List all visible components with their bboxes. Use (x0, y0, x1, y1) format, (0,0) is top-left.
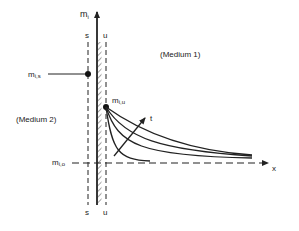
profile-curve-3 (106, 107, 252, 156)
profile-curve-2 (106, 107, 252, 158)
x-axis-label: x (272, 164, 276, 173)
plane-s-label-top: s (85, 31, 89, 40)
plane-u-label-top: u (103, 31, 107, 40)
concentration-profile-diagram: mi s u s u mi,s mi,u mi,o (Medium 1) (Me… (0, 0, 299, 231)
medium-2-label: (Medium 2) (16, 115, 57, 124)
y-axis-label: mi (80, 9, 89, 20)
interface-wall-hatch (98, 42, 102, 204)
point-s-dot (85, 71, 91, 77)
plane-u-label-bottom: u (103, 208, 107, 217)
point-u-label: mi,u (112, 96, 125, 105)
plane-s-label-bottom: s (85, 208, 89, 217)
point-o-label: mi,o (52, 158, 66, 167)
time-label: t (150, 114, 153, 123)
medium-1-label: (Medium 1) (160, 50, 201, 59)
point-s-label: mi,s (28, 70, 41, 79)
